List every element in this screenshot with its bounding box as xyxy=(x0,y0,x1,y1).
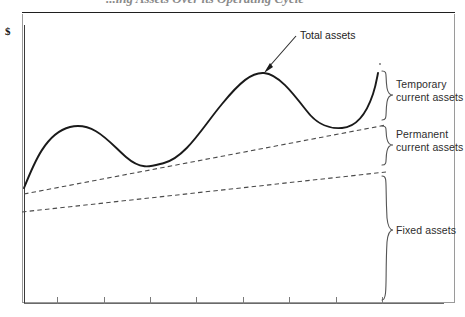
fixed-assets-brace xyxy=(382,176,393,300)
figure-container: ...ing Assets Over its Operating Cycle $… xyxy=(0,0,465,317)
fixed-assets-boundary xyxy=(22,172,386,212)
total-assets-leader-line xyxy=(268,36,296,68)
temporary-current-assets-label: Temporary current assets xyxy=(396,78,464,103)
permanent-current-assets-label: Permanent current assets xyxy=(396,128,464,153)
fixed-assets-label: Fixed assets xyxy=(396,224,464,237)
permanent-current-assets-boundary xyxy=(24,125,386,194)
permanent-current-assets-brace xyxy=(382,126,393,165)
temporary-current-assets-brace xyxy=(382,71,393,120)
total-assets-curve xyxy=(24,73,378,188)
total-assets-label: Total assets xyxy=(300,29,355,41)
curve-endpoint-marker xyxy=(379,63,381,65)
plot-area xyxy=(0,0,465,317)
